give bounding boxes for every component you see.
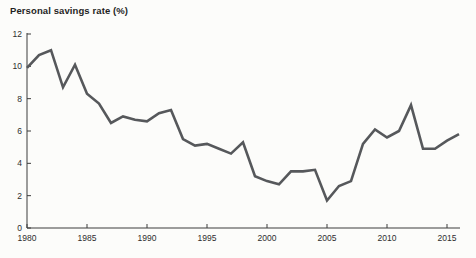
x-tick-label: 1990 — [138, 233, 157, 243]
chart-page: Personal savings rate (%) 02468101219801… — [0, 0, 476, 258]
x-tick-label: 2015 — [438, 233, 457, 243]
x-tick-label: 1995 — [198, 233, 217, 243]
savings-rate-line-chart: 0246810121980198519901995200020052010201… — [0, 0, 476, 258]
x-tick-label: 1980 — [18, 233, 37, 243]
y-tick-label: 12 — [13, 29, 23, 39]
y-tick-label: 8 — [17, 94, 22, 104]
x-tick-label: 2005 — [318, 233, 337, 243]
y-tick-label: 4 — [17, 158, 22, 168]
savings-rate-series-line — [27, 50, 459, 200]
y-tick-label: 0 — [17, 223, 22, 233]
x-tick-label: 2010 — [378, 233, 397, 243]
x-tick-label: 1985 — [78, 233, 97, 243]
y-tick-label: 10 — [13, 61, 23, 71]
y-tick-label: 6 — [17, 126, 22, 136]
y-tick-label: 2 — [17, 191, 22, 201]
x-tick-label: 2000 — [258, 233, 277, 243]
